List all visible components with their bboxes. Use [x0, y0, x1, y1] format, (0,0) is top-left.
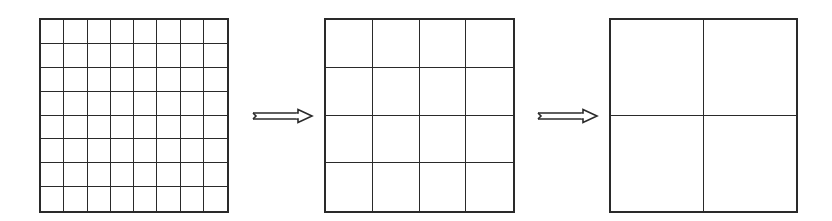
grid-cell [204, 139, 227, 163]
grid-cell [466, 163, 513, 211]
grid-cell [88, 139, 111, 163]
grid-cell [204, 187, 227, 211]
grid-cell [111, 92, 134, 116]
grid-cell [181, 92, 204, 116]
grid-cell [134, 20, 157, 44]
grid-cell [134, 92, 157, 116]
grid-cell [88, 163, 111, 187]
grid-cell [111, 44, 134, 68]
grid-cell [204, 20, 227, 44]
grid-cell [420, 163, 467, 211]
grid-cell [420, 68, 467, 116]
grid-cell [157, 116, 180, 140]
grid-cell [326, 68, 373, 116]
grid-cell [134, 163, 157, 187]
grid-cell [88, 187, 111, 211]
grid-cell [420, 116, 467, 164]
grid-cell [64, 187, 87, 211]
grid-cell [41, 163, 64, 187]
grid-cell [204, 68, 227, 92]
grid-cell [41, 92, 64, 116]
grid-cell [466, 116, 513, 164]
grid-cell [373, 163, 420, 211]
grid-cell [111, 139, 134, 163]
grid-cell [181, 187, 204, 211]
grid-cell [204, 92, 227, 116]
grid-cell [157, 139, 180, 163]
grid-cell [704, 20, 797, 116]
grid-cell [157, 187, 180, 211]
grid-cell [64, 68, 87, 92]
grid-cell [204, 116, 227, 140]
arrow-right-icon [537, 108, 599, 124]
grid-cell [41, 116, 64, 140]
grid-cell [134, 68, 157, 92]
grid-cell [111, 163, 134, 187]
grid-cell [41, 20, 64, 44]
grid-cell [111, 116, 134, 140]
grid-cell [41, 44, 64, 68]
grid-8x8 [39, 18, 229, 213]
grid-cell [704, 116, 797, 212]
grid-cell [373, 116, 420, 164]
grid-cell [157, 44, 180, 68]
double-arrow-icon [537, 108, 599, 124]
grid-cell [134, 187, 157, 211]
grid-cell [181, 163, 204, 187]
grid-cell [111, 20, 134, 44]
grid-cell [64, 44, 87, 68]
grid-cell [88, 92, 111, 116]
grid-cell [326, 163, 373, 211]
grid-cell [181, 68, 204, 92]
grid-cell [111, 68, 134, 92]
grid-cell [420, 20, 467, 68]
grid-cell [466, 68, 513, 116]
grid-cell [88, 68, 111, 92]
grid-cell [64, 139, 87, 163]
grid-cell [64, 92, 87, 116]
grid-cell [157, 92, 180, 116]
grid-cell [157, 163, 180, 187]
grid-cell [181, 44, 204, 68]
grid-cell [41, 139, 64, 163]
grid-cell [611, 20, 704, 116]
grid-cell [41, 187, 64, 211]
grid-cell [326, 116, 373, 164]
grid-cell [64, 163, 87, 187]
grid-cell [373, 68, 420, 116]
grid-cell [134, 116, 157, 140]
grid-cell [204, 44, 227, 68]
grid-cell [64, 20, 87, 44]
grid-cell [134, 139, 157, 163]
grid-cell [466, 20, 513, 68]
grid-2x2 [609, 18, 798, 213]
grid-cell [41, 68, 64, 92]
grid-cell [88, 116, 111, 140]
grid-cell [204, 163, 227, 187]
grid-cell [157, 68, 180, 92]
grid-cell [611, 116, 704, 212]
grid-cell [134, 44, 157, 68]
grid-cell [326, 20, 373, 68]
grid-cell [181, 20, 204, 44]
grid-cell [111, 187, 134, 211]
grid-cell [64, 116, 87, 140]
grid-cell [88, 20, 111, 44]
grid-cell [181, 116, 204, 140]
grid-cell [157, 20, 180, 44]
grid-4x4 [324, 18, 515, 213]
arrow-right-icon [252, 108, 314, 124]
grid-cell [88, 44, 111, 68]
double-arrow-icon [252, 108, 314, 124]
grid-cell [181, 139, 204, 163]
grid-cell [373, 20, 420, 68]
